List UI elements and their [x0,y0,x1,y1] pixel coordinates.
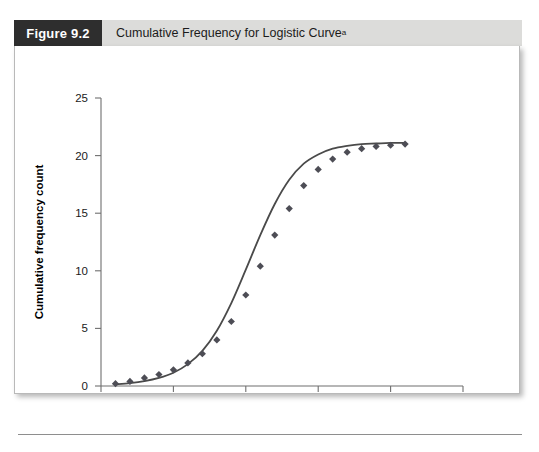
data-point [213,336,220,343]
data-point [199,350,206,357]
data-point-markers [112,140,409,387]
figure-block: Figure 9.2 Cumulative Frequency for Logi… [14,20,522,396]
figure-number-label: Figure 9.2 [14,20,102,46]
page-bottom-rule [18,434,522,435]
data-point [329,155,336,162]
y-tick-label-0: 0 [82,380,88,392]
logistic-cumulative-frequency-chart: 0510152025 0510152025 Cumulative frequen… [15,46,521,394]
data-point [242,291,249,298]
data-point [300,182,307,189]
figure-caption: Cumulative Frequency for Logistic Curvea [102,20,522,46]
data-point [228,318,235,325]
axes-group [101,98,463,386]
y-axis-title: Cumulative frequency count [33,165,45,320]
y-axis-tick-labels: 0510152025 [75,92,88,392]
y-tick-label-25: 25 [75,92,88,104]
data-point [286,205,293,212]
figure-caption-text: Cumulative Frequency for Logistic Curve [116,26,342,40]
figure-header: Figure 9.2 Cumulative Frequency for Logi… [14,20,522,46]
y-tick-label-20: 20 [75,150,88,162]
data-point [257,263,264,270]
y-tick-label-5: 5 [82,322,88,334]
data-point [271,231,278,238]
data-point [315,166,322,173]
plot-panel: 0510152025 0510152025 Cumulative frequen… [14,46,520,394]
data-point [358,145,365,152]
y-tick-label-15: 15 [75,207,88,219]
data-point [401,140,408,147]
y-axis-ticks [95,98,101,386]
x-axis-ticks [101,386,463,392]
data-point [344,149,351,156]
chart-area: 0510152025 0510152025 Cumulative frequen… [15,46,521,394]
y-tick-label-10: 10 [75,265,88,277]
